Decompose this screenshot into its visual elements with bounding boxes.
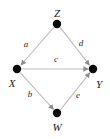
node-label-y: Y: [96, 79, 102, 90]
node-y[interactable]: [89, 65, 97, 73]
node-z[interactable]: [53, 20, 61, 28]
edge-label-e: e: [76, 91, 80, 100]
node-label-x: X: [9, 78, 16, 89]
edge-label-a: a: [24, 40, 29, 49]
node-label-w: W: [52, 122, 61, 133]
edge-d-line: [60, 27, 89, 65]
edge-label-c: c: [54, 55, 58, 64]
edge-b-line: [20, 73, 53, 110]
edge-label-b: b: [28, 90, 33, 99]
node-w[interactable]: [53, 109, 61, 117]
edge-label-d: d: [79, 39, 84, 48]
graph-canvas: [0, 0, 110, 139]
node-label-z: Z: [54, 8, 60, 19]
graph-figure: Z X Y W a d c b e: [0, 0, 110, 139]
node-x[interactable]: [13, 65, 21, 73]
